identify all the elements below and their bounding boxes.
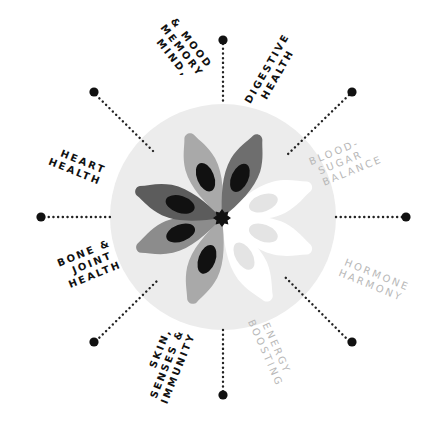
dot-hormone	[401, 212, 410, 221]
dot-energy	[347, 337, 356, 346]
dot-skin	[218, 390, 227, 399]
label-heart: HEART HEALTH	[47, 145, 108, 187]
dot-mind	[89, 87, 98, 96]
star-center-icon	[213, 209, 231, 227]
health-wheel-diagram: MIND, MEMORY & MOOD DIGESTIVE HEALTH BLO…	[0, 0, 445, 427]
label-energy: ENERGY BOOSTING	[246, 313, 296, 388]
dot-bone	[89, 337, 98, 346]
label-skin: SKIN, SENSES & IMMUNITY	[136, 322, 197, 405]
label-digestive: DIGESTIVE HEALTH	[242, 31, 302, 111]
label-bone: BONE & JOINT HEALTH	[56, 237, 123, 291]
label-mind: MIND, MEMORY & MOOD	[149, 15, 215, 86]
label-hormone: HORMONE HARMONY	[337, 256, 411, 304]
dot-blood-sugar	[347, 87, 356, 96]
dot-heart	[36, 212, 45, 221]
dot-digestive	[218, 35, 227, 44]
